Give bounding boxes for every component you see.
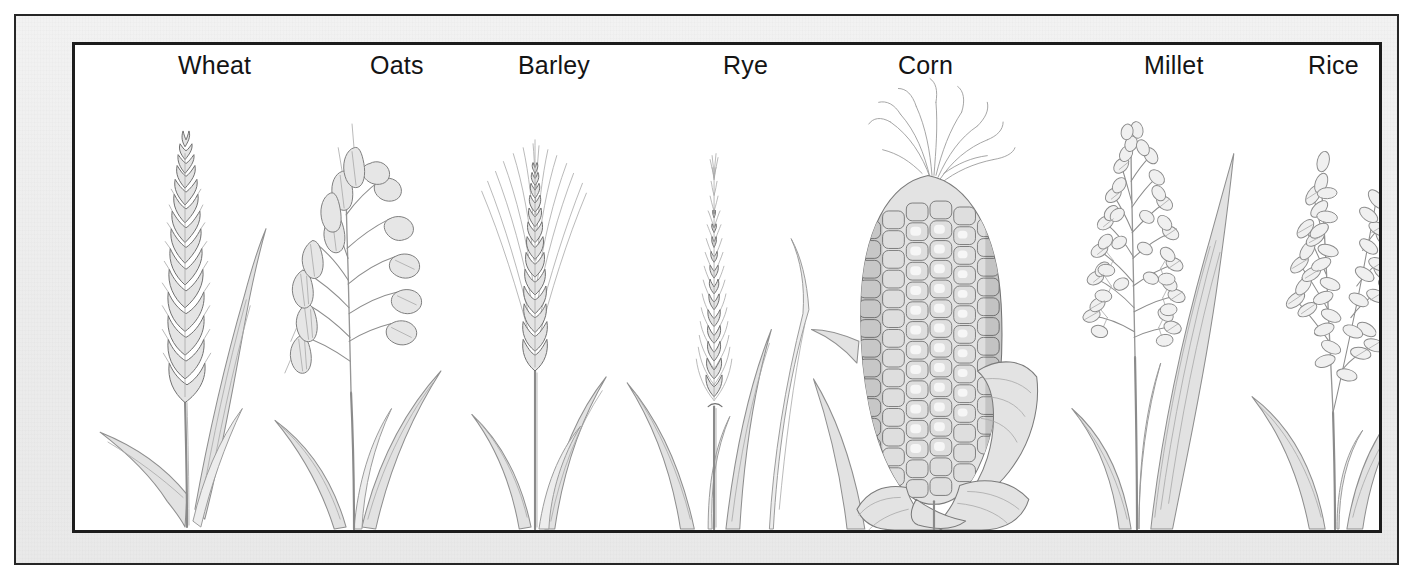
illustration-plate: Wheat Oats Barley Rye Corn Millet Rice	[0, 0, 1413, 571]
plate-inner-frame: Wheat Oats Barley Rye Corn Millet Rice	[72, 42, 1382, 533]
specimen-rye	[620, 45, 820, 530]
label-millet: Millet	[1144, 53, 1204, 78]
rye-spikelets	[696, 154, 732, 401]
plate-outer-frame: Wheat Oats Barley Rye Corn Millet Rice	[14, 14, 1399, 565]
oat-spikelets	[290, 147, 421, 373]
oat-panicle-icon	[250, 45, 460, 530]
label-corn: Corn	[898, 53, 953, 78]
label-rye: Rye	[723, 53, 768, 78]
corn-ear-icon	[810, 45, 1055, 530]
rice-grains	[1283, 150, 1382, 383]
label-oats: Oats	[370, 53, 424, 78]
label-rice: Rice	[1308, 53, 1359, 78]
specimen-millet	[1035, 45, 1240, 530]
millet-panicle-icon	[1035, 45, 1240, 530]
specimen-corn	[810, 45, 1055, 530]
label-wheat: Wheat	[178, 53, 251, 78]
barley-spikelets	[523, 163, 548, 371]
corn-silk	[869, 79, 1015, 184]
rice-panicle-icon	[1235, 45, 1382, 530]
label-barley: Barley	[518, 53, 590, 78]
illustration-field: Wheat Oats Barley Rye Corn Millet Rice	[75, 45, 1379, 530]
barley-spike-icon	[445, 45, 630, 530]
corn-kernels	[859, 175, 1005, 509]
rye-spike-icon	[620, 45, 820, 530]
wheat-spikelets	[162, 131, 210, 403]
specimen-oats	[250, 45, 460, 530]
specimen-rice	[1235, 45, 1382, 530]
specimen-barley	[445, 45, 630, 530]
